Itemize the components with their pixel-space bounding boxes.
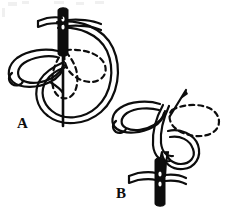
panel-b-thread-tail-right bbox=[165, 175, 186, 178]
panel-b-thread-tail-upper bbox=[129, 172, 156, 176]
panel-a-artwork bbox=[9, 8, 118, 126]
panel-a-needle-body bbox=[58, 8, 68, 57]
panel-b-planned-petal-right bbox=[170, 105, 219, 136]
panel-b-thread-tail-right-b bbox=[165, 181, 186, 184]
panel-a-completed-petal-outer bbox=[9, 50, 64, 87]
panel-label-a: A bbox=[17, 116, 28, 131]
panel-label-b: B bbox=[116, 186, 126, 201]
stitch-diagram-artwork bbox=[0, 0, 228, 210]
panel-b-needle-eye-upper bbox=[158, 171, 161, 176]
panel-a-planned-petal-right bbox=[64, 50, 105, 82]
panel-b-artwork bbox=[112, 90, 219, 206]
panel-a-needle-eye-lower bbox=[61, 24, 64, 29]
panel-b-needle-tip bbox=[170, 90, 186, 116]
stitch-diagram-figure: A B bbox=[0, 0, 228, 210]
panel-b-thread-tail-upper-b bbox=[129, 176, 156, 183]
panel-b-right-loop-inner bbox=[166, 137, 194, 164]
panel-b-needle-eye-lower bbox=[158, 181, 161, 186]
